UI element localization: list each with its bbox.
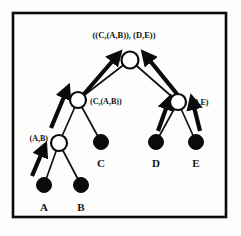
leaf-label-d: D — [152, 157, 160, 169]
internal-node-left-lower[interactable] — [51, 135, 67, 151]
leaf-node-e[interactable] — [189, 135, 204, 150]
cluster-labels: ((C,(A,B)), (D,E)) (C,(A,B)) (D,E) (A,B) — [30, 30, 209, 143]
leaf-label-c: C — [97, 157, 105, 169]
label-root-cluster: ((C,(A,B)), (D,E)) — [92, 30, 155, 40]
label-right-internal-cluster: (D,E) — [190, 98, 209, 107]
label-left-lower-internal-cluster: (A,B) — [30, 134, 49, 143]
internal-node-root[interactable] — [122, 52, 139, 69]
internal-node-left[interactable] — [70, 92, 86, 108]
arrow-to-right-internal-from-d-icon — [158, 103, 168, 131]
merge-arrows — [32, 57, 200, 176]
leaf-node-b[interactable] — [74, 178, 89, 193]
arrow-to-right-internal-from-e-icon — [193, 103, 200, 131]
clustering-tree-diagram: ((C,(A,B)), (D,E)) (C,(A,B)) (D,E) (A,B)… — [0, 0, 241, 236]
leaf-label-b: B — [77, 201, 85, 213]
arrow-to-left-internal-icon — [51, 92, 66, 128]
figure-root: ((C,(A,B)), (D,E)) (C,(A,B)) (D,E) (A,B)… — [0, 0, 241, 236]
leaf-node-d[interactable] — [149, 135, 164, 150]
leaf-node-a[interactable] — [37, 178, 52, 193]
leaf-label-a: A — [40, 201, 48, 213]
leaf-label-e: E — [192, 157, 199, 169]
leaf-node-c[interactable] — [94, 135, 109, 150]
arrow-to-left-lower-internal-icon — [32, 150, 43, 176]
leaf-labels: A B C D E — [40, 157, 200, 213]
branch-edges — [44, 60, 196, 185]
internal-node-right[interactable] — [170, 94, 186, 110]
label-left-internal-cluster: (C,(A,B)) — [90, 97, 122, 106]
